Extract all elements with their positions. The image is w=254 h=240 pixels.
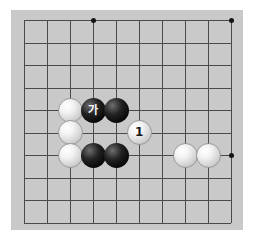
- stone-white-move-1[interactable]: 1: [127, 120, 152, 145]
- grid-line-horizontal-9: [24, 223, 231, 224]
- go-diagram-root: 가1: [0, 0, 254, 240]
- grid-line-horizontal-0: [24, 20, 231, 21]
- grid-line-horizontal-2: [24, 65, 231, 66]
- stone-white-b[interactable]: [58, 120, 83, 145]
- stone-white-move-1-label: 1: [135, 126, 143, 138]
- stone-white-d[interactable]: [173, 143, 198, 168]
- stone-black-c[interactable]: [81, 143, 106, 168]
- grid-line-vertical-8: [208, 20, 209, 223]
- grid-line-vertical-9: [231, 20, 232, 223]
- stone-black-b[interactable]: [104, 98, 129, 123]
- grid-line-vertical-7: [185, 20, 186, 223]
- grid-line-horizontal-1: [24, 43, 231, 44]
- star-point-top-left: [91, 18, 96, 23]
- stone-white-a[interactable]: [58, 98, 83, 123]
- star-point-top-right: [229, 18, 234, 23]
- stone-black-ga[interactable]: 가: [81, 98, 106, 123]
- star-point-right: [229, 153, 234, 158]
- go-board[interactable]: 가1: [11, 10, 243, 230]
- grid-line-horizontal-7: [24, 178, 231, 179]
- stone-black-d[interactable]: [104, 143, 129, 168]
- stone-black-ga-label: 가: [88, 105, 98, 116]
- grid-line-vertical-6: [162, 20, 163, 223]
- stone-white-c[interactable]: [58, 143, 83, 168]
- grid-line-vertical-0: [24, 20, 25, 223]
- grid-line-horizontal-8: [24, 200, 231, 201]
- grid-line-vertical-1: [47, 20, 48, 223]
- go-board-grid-layer: 가1: [11, 10, 243, 230]
- stone-white-e[interactable]: [196, 143, 221, 168]
- grid-line-horizontal-3: [24, 88, 231, 89]
